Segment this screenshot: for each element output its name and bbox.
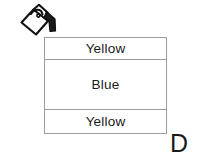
layer-band-bottom-label: Yellow [86, 115, 126, 129]
layer-band-top-label: Yellow [86, 42, 126, 56]
figure-root: Yellow Blue Yellow D [0, 0, 203, 166]
layer-band-top: Yellow [45, 38, 166, 60]
layer-stack: Yellow Blue Yellow [44, 37, 167, 134]
panel-label: D [170, 131, 188, 156]
paint-pour-stream-icon [45, 12, 56, 32]
layer-band-middle-label: Blue [92, 78, 120, 92]
bucket-rivet-icon [37, 14, 40, 17]
layer-band-bottom: Yellow [45, 110, 166, 133]
layer-band-middle: Blue [45, 60, 166, 110]
